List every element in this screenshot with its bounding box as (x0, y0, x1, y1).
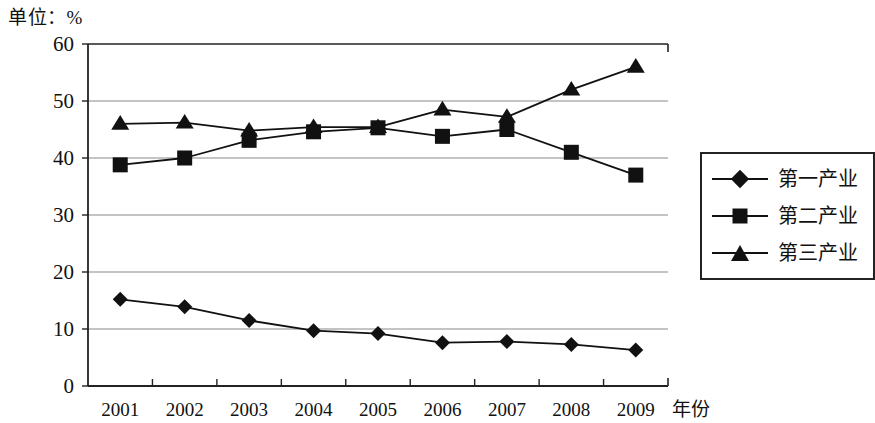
legend-item-label: 第二产业 (778, 206, 858, 226)
data-point-marker (242, 313, 257, 328)
data-point-marker (113, 292, 128, 307)
legend-item[interactable]: 第三产业 (712, 236, 858, 270)
triangle-marker-icon (731, 245, 749, 261)
data-point-marker (628, 343, 643, 358)
legend-marker-slot (712, 204, 768, 228)
data-point-marker (564, 145, 579, 160)
data-point-marker (177, 299, 192, 314)
data-point-marker (176, 114, 194, 129)
data-point-marker (499, 334, 514, 349)
data-point-marker (435, 129, 450, 144)
data-point-marker (628, 168, 643, 183)
data-point-marker (564, 337, 579, 352)
data-point-marker (371, 326, 386, 341)
legend-item-label: 第三产业 (778, 243, 858, 263)
diamond-marker-icon (731, 170, 749, 188)
legend-item[interactable]: 第二产业 (712, 199, 858, 233)
data-point-marker (499, 122, 514, 137)
data-point-marker (433, 101, 451, 116)
square-marker-icon (733, 209, 748, 224)
data-series (113, 292, 644, 358)
data-point-marker (177, 151, 192, 166)
data-point-marker (627, 58, 645, 73)
legend-item-label: 第一产业 (778, 169, 858, 189)
data-point-marker (306, 323, 321, 338)
chart-legend: 第一产业第二产业第三产业 (700, 152, 875, 280)
data-point-marker (111, 115, 129, 130)
data-point-marker (113, 157, 128, 172)
legend-marker-slot (712, 241, 768, 265)
legend-marker-slot (712, 167, 768, 191)
data-point-marker (435, 335, 450, 350)
data-series (111, 58, 645, 136)
data-series-layer (111, 58, 645, 357)
legend-item[interactable]: 第一产业 (712, 162, 858, 196)
